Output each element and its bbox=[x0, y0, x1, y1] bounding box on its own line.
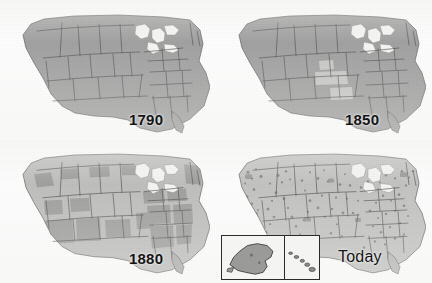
map-panel-today: Today bbox=[216, 141, 432, 283]
panel-caption-1850: 1850 bbox=[345, 112, 379, 127]
alaska-region bbox=[227, 244, 273, 275]
hawaii-region bbox=[289, 252, 316, 272]
map-panel-1880: 1880 bbox=[0, 141, 216, 283]
inset-divider bbox=[284, 236, 285, 279]
panel-caption-1790: 1790 bbox=[129, 112, 163, 127]
us-map-1790 bbox=[14, 13, 210, 137]
us-map-1850 bbox=[230, 13, 426, 137]
panel-caption-today: Today bbox=[338, 249, 382, 265]
map-panel-1790: 1790 bbox=[0, 0, 216, 141]
panel-caption-1880: 1880 bbox=[129, 251, 163, 266]
map-canvas-1850 bbox=[216, 0, 432, 141]
map-panel-1850: 1850 bbox=[216, 0, 432, 141]
map-canvas-1790 bbox=[0, 0, 216, 141]
us-map-1880 bbox=[14, 152, 210, 278]
map-canvas-1880 bbox=[0, 141, 216, 283]
inset-box-alaska-hawaii bbox=[221, 235, 320, 280]
map-panel-grid: 1790 bbox=[0, 0, 432, 283]
inset-map bbox=[222, 236, 319, 279]
